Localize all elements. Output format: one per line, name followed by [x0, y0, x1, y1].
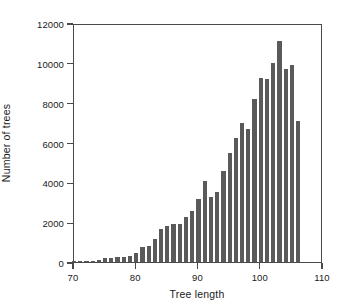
histogram-bar	[97, 260, 101, 262]
histogram-bar	[203, 181, 207, 262]
y-tick-label: 6000	[42, 138, 64, 149]
histogram-bar	[115, 257, 119, 262]
histogram-bar	[153, 239, 157, 263]
x-tick	[197, 263, 198, 269]
x-tick-label: 100	[252, 272, 268, 283]
x-tick	[72, 263, 73, 269]
histogram-bar	[103, 258, 107, 262]
histogram-bar	[122, 257, 126, 262]
histogram-bar	[284, 69, 288, 262]
x-tick-label: 70	[68, 272, 79, 283]
histogram-bar	[165, 226, 169, 262]
histogram-bar	[271, 63, 275, 262]
histogram-bar	[78, 261, 82, 262]
histogram-bar	[290, 65, 294, 262]
histogram-bar	[84, 261, 88, 262]
y-axis: Number of trees 020004000600080001000012…	[0, 0, 73, 304]
histogram-bar	[109, 258, 113, 262]
histogram-bar	[72, 261, 76, 262]
histogram-bar	[134, 253, 138, 262]
histogram-bar	[221, 171, 225, 262]
bar-series	[74, 25, 321, 262]
y-tick-label: 4000	[42, 178, 64, 189]
histogram-bar	[190, 211, 194, 262]
histogram-bar	[196, 199, 200, 262]
y-tick-label: 2000	[42, 218, 64, 229]
x-tick-label: 80	[130, 272, 141, 283]
histogram-bar	[215, 192, 219, 263]
histogram-bar	[277, 41, 281, 262]
histogram-bar	[234, 138, 238, 262]
plot-area	[73, 24, 322, 263]
histogram-bar	[91, 261, 95, 262]
histogram-bar	[209, 197, 213, 262]
histogram-bar	[246, 129, 250, 262]
x-tick-label: 90	[192, 272, 203, 283]
histogram-bar	[178, 224, 182, 262]
histogram-bar	[171, 224, 175, 262]
y-tick-label: 8000	[42, 98, 64, 109]
histogram-bar	[159, 229, 163, 262]
histogram-bar	[252, 99, 256, 262]
histogram-bar	[228, 153, 232, 262]
x-axis-title: Tree length	[170, 288, 225, 300]
histogram-bar	[147, 246, 151, 262]
histogram-bar	[184, 217, 188, 262]
histogram-bar	[296, 121, 300, 262]
histogram-bar	[265, 79, 269, 262]
histogram-bar	[140, 247, 144, 262]
y-tick-label: 12000	[37, 19, 64, 30]
x-tick	[259, 263, 260, 269]
x-tick	[321, 263, 322, 269]
histogram-bar	[259, 78, 263, 262]
histogram-bar	[128, 256, 132, 262]
histogram-bar	[240, 123, 244, 262]
y-tick-label: 10000	[37, 58, 64, 69]
x-tick-label: 110	[314, 272, 329, 283]
histogram-figure: Number of trees 020004000600080001000012…	[0, 0, 346, 304]
x-tick	[135, 263, 136, 269]
y-axis-title: Number of trees	[0, 104, 12, 182]
x-axis: Tree length 708090100110	[0, 263, 346, 304]
